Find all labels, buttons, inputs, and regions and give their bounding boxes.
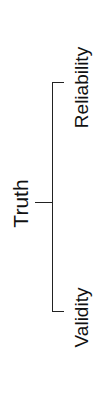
branch-validity — [52, 311, 64, 312]
root-connector — [35, 202, 52, 203]
child-node-validity: Validity — [72, 280, 91, 356]
bracket-vertical — [52, 82, 53, 312]
child-node-reliability: Reliability — [72, 40, 91, 136]
branch-reliability — [52, 82, 64, 83]
root-node-truth: Truth — [10, 179, 31, 229]
